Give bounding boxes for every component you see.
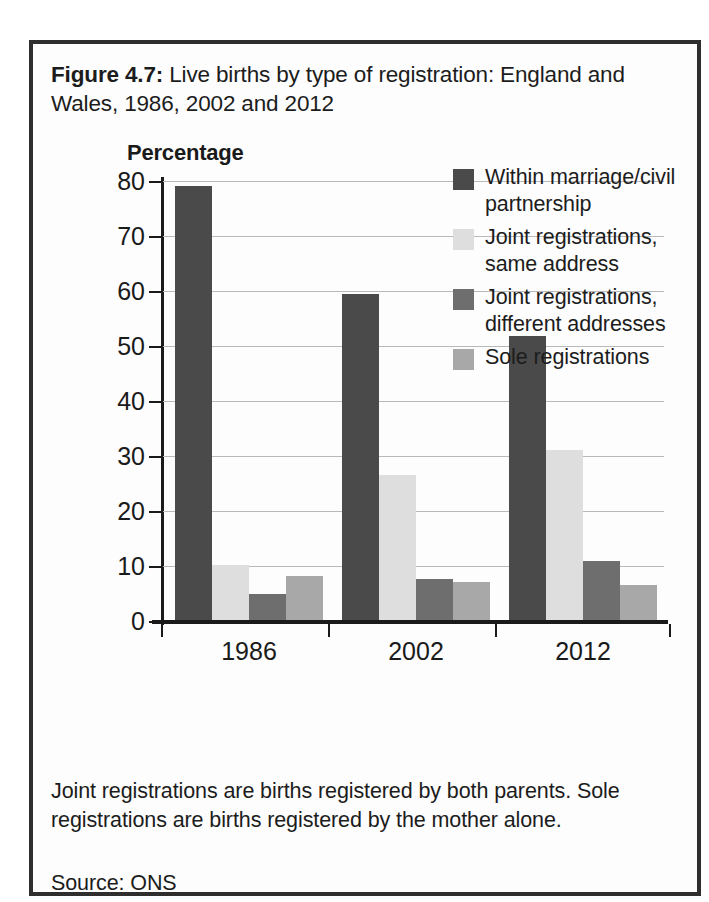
figure-source: Source: ONS bbox=[51, 871, 177, 896]
legend-item[interactable]: Within marriage/civil partnership bbox=[453, 164, 703, 218]
y-tick-mark bbox=[149, 181, 163, 183]
y-tick-mark bbox=[149, 511, 163, 513]
y-axis-title: Percentage bbox=[127, 140, 244, 166]
legend-item[interactable]: Joint registrations, different addresses bbox=[453, 284, 703, 338]
legend-swatch-icon bbox=[453, 349, 474, 370]
legend: Within marriage/civil partnershipJoint r… bbox=[453, 164, 703, 377]
figure-title: Figure 4.7: Live births by type of regis… bbox=[51, 60, 679, 118]
bar-group bbox=[175, 180, 323, 620]
x-tick-label: 2012 bbox=[555, 637, 611, 666]
bar bbox=[342, 294, 379, 620]
y-tick-label: 20 bbox=[117, 497, 145, 526]
y-tick-label: 70 bbox=[117, 222, 145, 251]
y-tick-mark bbox=[149, 291, 163, 293]
x-tick-mark bbox=[495, 624, 497, 637]
bar bbox=[212, 565, 249, 620]
y-tick-label: 50 bbox=[117, 332, 145, 361]
y-tick-mark bbox=[149, 346, 163, 348]
y-tick-label: 30 bbox=[117, 442, 145, 471]
legend-item[interactable]: Joint registrations, same address bbox=[453, 224, 703, 278]
bar bbox=[583, 561, 620, 620]
bar bbox=[546, 450, 583, 621]
x-tick-label: 2002 bbox=[388, 637, 444, 666]
y-tick-label: 80 bbox=[117, 167, 145, 196]
x-tick-label: 1986 bbox=[221, 637, 277, 666]
x-axis-line bbox=[152, 620, 668, 624]
figure-number-label: Figure 4.7: bbox=[51, 62, 163, 87]
legend-label: Joint registrations, same address bbox=[485, 224, 703, 278]
figure-inner: Figure 4.7: Live births by type of regis… bbox=[33, 44, 697, 892]
bar bbox=[175, 186, 212, 621]
legend-label: Joint registrations, different addresses bbox=[485, 284, 703, 338]
y-tick-mark bbox=[149, 566, 163, 568]
bar bbox=[286, 576, 323, 620]
bar bbox=[453, 582, 490, 620]
chart-area: Percentage 01020304050607080 19862002201… bbox=[33, 140, 697, 760]
figure-note: Joint registrations are births registere… bbox=[51, 777, 675, 835]
bar bbox=[249, 594, 286, 620]
y-tick-mark bbox=[149, 401, 163, 403]
legend-item[interactable]: Sole registrations bbox=[453, 344, 703, 371]
bar bbox=[620, 585, 657, 620]
y-tick-mark bbox=[149, 456, 163, 458]
legend-label: Sole registrations bbox=[485, 344, 649, 371]
legend-label: Within marriage/civil partnership bbox=[485, 164, 703, 218]
legend-swatch-icon bbox=[453, 229, 474, 250]
legend-swatch-icon bbox=[453, 289, 474, 310]
y-tick-label: 0 bbox=[131, 607, 145, 636]
x-tick-mark bbox=[161, 624, 163, 637]
bar bbox=[379, 475, 416, 620]
y-tick-mark bbox=[149, 621, 163, 623]
x-tick-mark bbox=[669, 624, 671, 637]
x-tick-mark bbox=[328, 624, 330, 637]
bar bbox=[416, 579, 453, 620]
y-tick-mark bbox=[149, 236, 163, 238]
y-tick-label: 40 bbox=[117, 387, 145, 416]
y-tick-label: 60 bbox=[117, 277, 145, 306]
legend-swatch-icon bbox=[453, 169, 474, 190]
y-tick-label: 10 bbox=[117, 552, 145, 581]
figure-frame: Figure 4.7: Live births by type of regis… bbox=[29, 40, 701, 896]
bar bbox=[509, 336, 546, 620]
